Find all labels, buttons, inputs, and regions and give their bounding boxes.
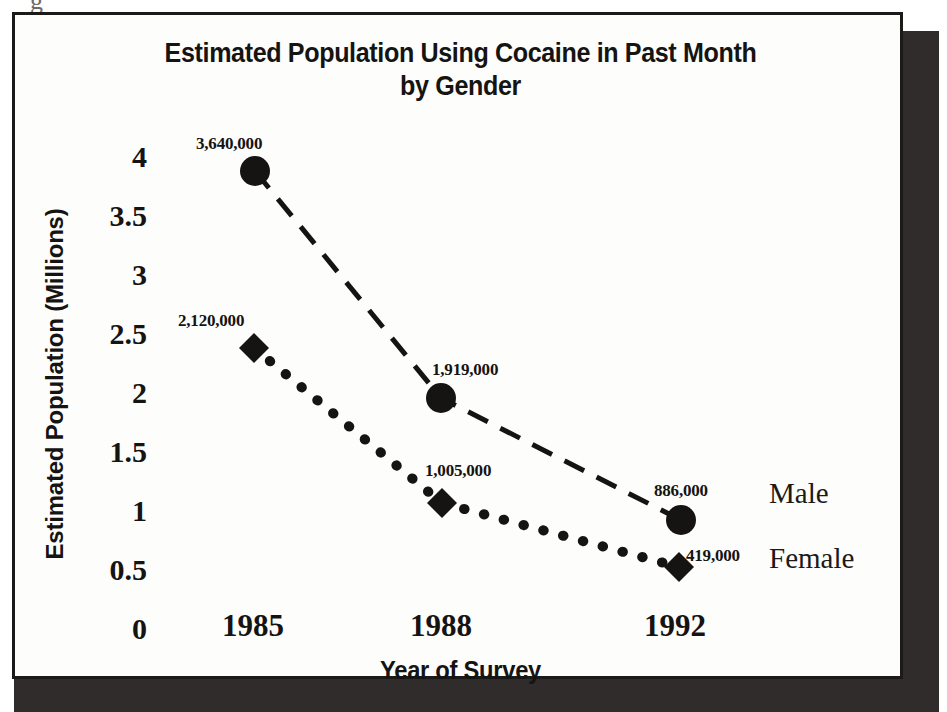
data-label-female-1985: 2,120,000 <box>178 311 244 331</box>
data-label-male-1992: 886,000 <box>654 481 708 501</box>
series-female-line <box>254 348 679 567</box>
chart-title-line-2: by Gender <box>46 70 875 103</box>
series-male-point-1988 <box>426 383 456 413</box>
y-tick-1: 1 <box>77 494 147 528</box>
y-tick-2: 2 <box>77 376 147 410</box>
x-tick-1985: 1985 <box>173 608 333 644</box>
data-label-female-1992: 419,000 <box>686 546 740 566</box>
series-male-point-1985 <box>240 156 270 186</box>
data-label-male-1988: 1,919,000 <box>432 360 498 380</box>
data-label-female-1988: 1,005,000 <box>425 461 491 481</box>
x-tick-1988: 1988 <box>361 608 521 644</box>
y-tick-3: 3 <box>77 258 147 292</box>
chart-title: Estimated Population Using Cocaine in Pa… <box>46 37 875 103</box>
legend-label-female: Female <box>769 542 854 575</box>
chart-title-line-1: Estimated Population Using Cocaine in Pa… <box>46 37 875 70</box>
y-tick-0-5: 0.5 <box>77 553 147 587</box>
legend-label-male: Male <box>769 477 829 510</box>
series-male-point-1992 <box>666 505 696 535</box>
y-tick-2-5: 2.5 <box>77 317 147 351</box>
figure-page: g Estimated Population Using Cocaine in … <box>0 0 947 712</box>
plot-area <box>15 15 906 682</box>
y-tick-1-5: 1.5 <box>77 435 147 469</box>
chart-frame: Estimated Population Using Cocaine in Pa… <box>12 12 903 679</box>
y-tick-0: 0 <box>77 612 147 646</box>
data-label-male-1985: 3,640,000 <box>196 134 262 154</box>
page-drop-shadow-right <box>903 31 939 712</box>
series-female-point-1985 <box>239 333 269 363</box>
x-tick-1992: 1992 <box>595 608 755 644</box>
y-tick-3-5: 3.5 <box>77 199 147 233</box>
x-axis-label: Year of Survey <box>37 656 883 685</box>
series-female-point-1988 <box>427 488 457 518</box>
y-axis-label: Estimated Population (Millions) <box>41 174 69 594</box>
y-tick-4: 4 <box>77 140 147 174</box>
